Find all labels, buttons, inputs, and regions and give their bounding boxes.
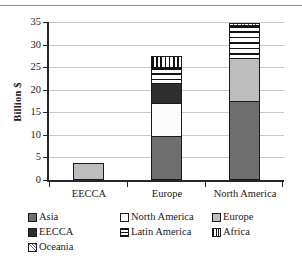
x-tick-mark-1	[127, 182, 128, 187]
y-tick-mark-15	[43, 112, 48, 113]
x-tick-mark-2	[205, 182, 206, 187]
legend-label-europe: Europe	[223, 211, 253, 223]
legend-label-africa: Africa	[223, 226, 250, 238]
legend-item-europe[interactable]: Europe	[212, 211, 280, 223]
x-tick-mark-3	[282, 182, 283, 187]
legend-item-eecca[interactable]: EECCA	[28, 226, 120, 238]
legend-label-latin-america: Latin America	[131, 226, 191, 238]
x-tick-mark-0	[49, 182, 50, 187]
bar-segment-europe	[229, 58, 260, 101]
page-top-rule	[0, 5, 302, 6]
y-tick-mark-25	[43, 67, 48, 68]
legend-swatch-oceania-icon	[28, 243, 37, 252]
bar-segment-eecca	[151, 83, 182, 103]
y-tick-label-10: 10	[31, 130, 42, 141]
y-tick-label-5: 5	[36, 152, 41, 163]
bar-segment-oceania	[229, 23, 260, 25]
legend-item-latin-america[interactable]: Latin America	[120, 226, 212, 238]
legend-swatch-europe-icon	[212, 213, 221, 222]
bar-segment-latin-america	[151, 67, 182, 83]
bar-segment-north-america	[151, 103, 182, 136]
bar-segment-asia	[229, 101, 260, 180]
bar-segment-latin-america	[229, 25, 260, 58]
plot-area: 35 30 25 20 15 10 5 0	[47, 22, 284, 182]
y-tick-label-35: 35	[31, 17, 42, 28]
y-axis-title: Billion $	[6, 22, 28, 182]
x-category-label-europe: Europe	[152, 189, 182, 200]
x-category-label-eecca: EECCA	[72, 189, 106, 200]
y-tick-label-25: 25	[31, 62, 42, 73]
bar-segment-asia	[151, 136, 182, 180]
legend-swatch-africa-icon	[212, 228, 221, 237]
x-category-label-north-america: North America	[214, 189, 277, 200]
bar-segment-europe	[73, 163, 104, 180]
legend-swatch-latin-america-icon	[120, 228, 129, 237]
legend-label-asia: Asia	[39, 211, 58, 223]
bar-north-america	[229, 23, 260, 180]
bar-segment-africa	[151, 56, 182, 67]
stacked-bar-chart: Billion $ 35 30 25 20 15 10 5 0	[0, 0, 302, 269]
legend-item-asia[interactable]: Asia	[28, 211, 120, 223]
bar-europe	[151, 56, 182, 180]
y-tick-mark-5	[43, 157, 48, 158]
legend-label-oceania: Oceania	[39, 241, 73, 253]
y-tick-label-20: 20	[31, 84, 42, 95]
legend-swatch-asia-icon	[28, 213, 37, 222]
legend-swatch-north-america-icon	[120, 213, 129, 222]
chart-legend: Asia North America Europe EECCA Latin Am…	[28, 211, 280, 253]
legend-item-africa[interactable]: Africa	[212, 226, 280, 238]
bar-eecca	[73, 163, 104, 180]
x-axis-line	[47, 180, 284, 182]
y-tick-mark-10	[43, 135, 48, 136]
y-tick-label-0: 0	[36, 175, 41, 186]
legend-item-oceania[interactable]: Oceania	[28, 241, 120, 253]
y-tick-label-15: 15	[31, 107, 42, 118]
y-tick-mark-35	[43, 22, 48, 23]
legend-swatch-eecca-icon	[28, 228, 37, 237]
y-tick-mark-20	[43, 90, 48, 91]
legend-item-north-america[interactable]: North America	[120, 211, 212, 223]
legend-label-eecca: EECCA	[39, 226, 73, 238]
y-tick-mark-30	[43, 45, 48, 46]
y-tick-mark-0	[43, 180, 48, 181]
y-tick-label-30: 30	[31, 39, 42, 50]
legend-label-north-america: North America	[131, 211, 194, 223]
